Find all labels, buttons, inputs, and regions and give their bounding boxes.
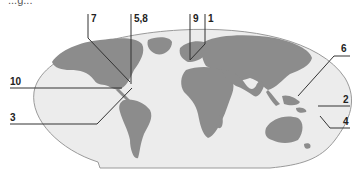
label-9: 9 bbox=[193, 14, 199, 24]
label-1: 1 bbox=[208, 14, 214, 24]
label-5-8: 5,8 bbox=[134, 14, 148, 24]
map-svg bbox=[0, 0, 358, 175]
world-map-diagram: ...g... 7 5,8 9 1 6 10 3 2 4 bbox=[0, 0, 358, 175]
label-4: 4 bbox=[343, 117, 349, 127]
label-2: 2 bbox=[343, 95, 349, 105]
label-3: 3 bbox=[10, 113, 16, 123]
label-6: 6 bbox=[341, 44, 347, 54]
label-7: 7 bbox=[91, 14, 97, 24]
label-10: 10 bbox=[10, 77, 21, 87]
cropped-caption: ...g... bbox=[8, 0, 32, 6]
